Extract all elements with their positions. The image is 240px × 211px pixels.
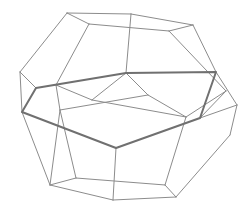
edge [230,105,237,135]
edge [176,135,230,197]
edge [20,72,22,112]
edge [60,110,76,178]
edge [76,178,165,185]
edge [186,91,226,117]
dodecahedron-diagram [0,0,240,211]
edge [67,13,89,24]
edge [169,31,226,91]
edge [20,13,67,72]
edge [126,14,131,73]
edge [56,24,89,85]
edge [20,72,36,88]
edge [50,110,60,185]
edge [131,14,193,25]
edge [50,185,113,200]
edge [56,85,92,100]
edge [113,148,116,200]
edge [216,72,237,105]
highlighted-equator-path [22,72,216,148]
edge [22,112,50,185]
edge [56,85,60,110]
edge [126,73,148,95]
edge [200,105,237,118]
edge [165,185,176,197]
edge [89,24,169,31]
edge [193,25,216,72]
edge [113,197,176,200]
edge [67,13,131,14]
edge [169,25,193,31]
edge [50,178,76,185]
